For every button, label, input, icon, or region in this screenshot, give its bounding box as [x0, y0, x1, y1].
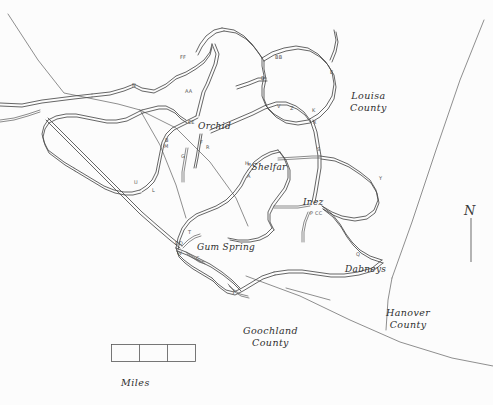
road-code-ee: EE [188, 120, 195, 125]
road-code-y: Y [379, 176, 382, 181]
town-label-dabneys: Dabneys [345, 265, 386, 274]
town-label-shelfar: "Shelfar [247, 163, 287, 172]
road-code-d: D [261, 76, 265, 81]
road-code-a: A [247, 174, 251, 179]
town-label-gum-spring: Gum Spring [197, 243, 255, 252]
road-code-l: L [152, 188, 155, 193]
county-label-hanover: Hanover County [386, 307, 430, 331]
county-louisa-line2: County [350, 102, 387, 114]
road-network [0, 28, 383, 298]
road-code-ff: FF [180, 55, 186, 60]
road-code-dd: DD [175, 241, 183, 246]
road-code-x: X [313, 120, 317, 125]
road-code-h: H [245, 161, 249, 166]
road-code-p-cc: P CC [310, 211, 322, 216]
county-label-louisa: Louisa County [350, 90, 387, 114]
road-code-g: G [181, 154, 185, 159]
town-label-orchid: Orchid [198, 122, 231, 131]
road-code-r: R [206, 145, 210, 150]
road-code-s: S [317, 147, 320, 152]
hand-drawn-road-map: Orchid "Shelfar Inez Gum Spring Dabneys … [0, 0, 493, 405]
road-code-j: J [233, 289, 235, 294]
scale-bar-graphic [112, 345, 196, 362]
road-code-m: M [164, 144, 169, 149]
road-code-aa: AA [185, 89, 192, 94]
county-label-goochland: Goochland County [243, 325, 298, 349]
county-louisa-line1: Louisa [350, 90, 387, 102]
road-code-n: N [132, 83, 136, 88]
county-goochland-line1: Goochland [243, 325, 298, 337]
road-code-w: W [177, 251, 182, 256]
road-code-f: F [200, 140, 203, 145]
road-code-t: T [188, 230, 191, 235]
county-hanover-line2: County [386, 319, 430, 331]
road-code-u: U [134, 180, 138, 185]
road-code-e: E [330, 70, 333, 75]
county-goochland-line2: County [243, 337, 298, 349]
road-code-c: C [196, 256, 200, 261]
county-hanover-line1: Hanover [386, 307, 430, 319]
road-code-q: Q [356, 252, 360, 257]
road-code-k: K [312, 108, 315, 113]
scale-bar-caption: Miles [121, 378, 150, 388]
north-arrow-icon: N [464, 204, 475, 217]
road-code-v: V [277, 104, 281, 109]
town-label-inez: Inez [303, 198, 324, 207]
road-code-bb: BB [275, 55, 282, 60]
road-code-z: Z [290, 106, 294, 111]
